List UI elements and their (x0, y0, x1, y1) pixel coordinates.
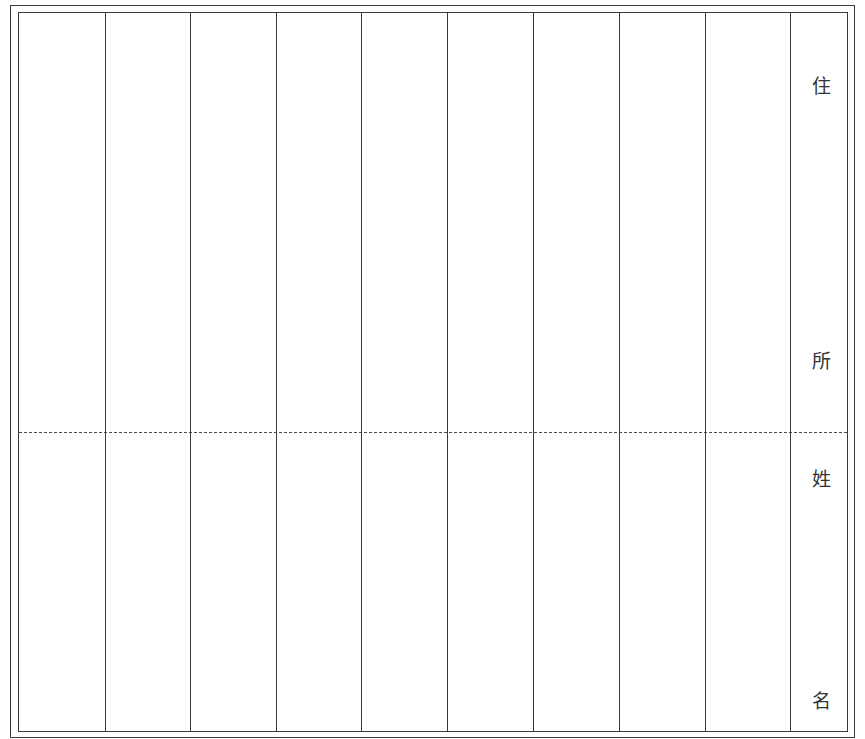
entry-2-address-cell[interactable] (105, 13, 190, 432)
entry-2-name-cell[interactable] (105, 433, 190, 731)
form-table: 住 所 姓 名 (18, 12, 848, 732)
entry-7-name-cell[interactable] (533, 433, 619, 731)
name-label-char-1: 姓 (801, 464, 841, 491)
address-label-char-2: 所 (801, 346, 841, 373)
entry-1-name-cell[interactable] (19, 433, 105, 731)
entry-4-address-cell[interactable] (276, 13, 361, 432)
entry-8-address-cell[interactable] (619, 13, 705, 432)
entry-7-address-cell[interactable] (533, 13, 619, 432)
name-label-char-2: 名 (801, 686, 841, 713)
entry-9-address-cell[interactable] (705, 13, 790, 432)
entry-9-name-cell[interactable] (705, 433, 790, 731)
entry-3-address-cell[interactable] (190, 13, 276, 432)
entry-1-address-cell[interactable] (19, 13, 105, 432)
address-label-char-1: 住 (801, 71, 841, 98)
entry-6-address-cell[interactable] (447, 13, 533, 432)
entry-8-name-cell[interactable] (619, 433, 705, 731)
entry-5-name-cell[interactable] (361, 433, 447, 731)
header-column-divider (790, 13, 791, 731)
entry-4-name-cell[interactable] (276, 433, 361, 731)
entry-3-name-cell[interactable] (190, 433, 276, 731)
entry-6-name-cell[interactable] (447, 433, 533, 731)
entry-5-address-cell[interactable] (361, 13, 447, 432)
